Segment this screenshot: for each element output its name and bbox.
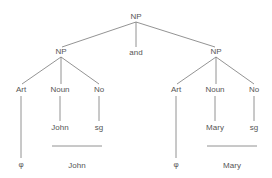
left-noun-terminal: John [51,124,68,132]
right-surface-form: Mary [223,162,241,170]
left-number-node: No [94,86,104,94]
right-art-node: Art [171,86,181,94]
root-np-node: NP [130,13,141,21]
tree-edges [0,0,272,178]
left-art-terminal: φ [18,161,23,169]
right-noun-terminal: Mary [206,124,224,132]
left-np-node: NP [55,48,66,56]
right-number-node: No [249,86,259,94]
left-number-terminal: sg [95,124,103,132]
conjunction-node: and [129,49,142,57]
left-surface-form: John [68,162,85,170]
left-noun-node: Noun [50,86,69,94]
right-art-terminal: φ [173,161,178,169]
right-number-terminal: sg [250,124,258,132]
left-art-node: Art [16,86,26,94]
right-noun-node: Noun [205,86,224,94]
right-np-node: NP [210,48,221,56]
